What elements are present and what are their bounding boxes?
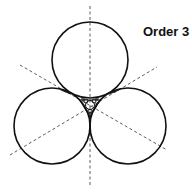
axis-diagonal-2 [10, 67, 157, 155]
circle-bottom-left [14, 88, 90, 164]
large-circles [14, 22, 166, 164]
diagram-title: Order 3 [143, 24, 189, 39]
circle-top [52, 22, 128, 98]
circle-bottom-right [90, 88, 166, 164]
